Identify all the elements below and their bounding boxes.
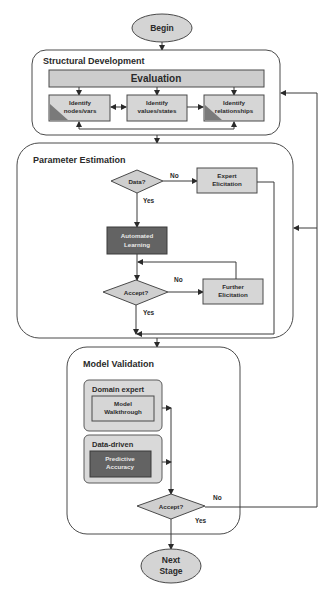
- automated-line2: Learning: [124, 241, 150, 248]
- identify-relationships-box: Identify relationships: [204, 95, 264, 121]
- domain-expert-group: Domain expert Model Walkthrough: [84, 380, 162, 431]
- validation-yes-label: Yes: [195, 517, 207, 524]
- structural-title: Structural Development: [43, 56, 145, 66]
- identify-nodes-line1: Identify: [69, 99, 92, 106]
- structural-development-stage: Structural Development Evaluation Identi…: [32, 50, 280, 135]
- further-line1: Further: [222, 283, 244, 290]
- identify-relationships-line1: Identify: [223, 99, 246, 106]
- walkthrough-line1: Model: [114, 400, 132, 407]
- expert-line1: Expert: [217, 172, 236, 179]
- data-driven-title: Data-driven: [92, 440, 134, 449]
- flowchart: Begin Structural Development Evaluation …: [0, 0, 333, 597]
- predictive-line1: Predictive: [105, 455, 135, 462]
- data-driven-group: Data-driven Predictive Accuracy: [84, 435, 162, 483]
- identify-nodes-box: Identify nodes/vars: [49, 95, 110, 121]
- identify-values-line1: Identify: [146, 99, 169, 106]
- data-decision-label: Data?: [128, 178, 145, 185]
- evaluation-label: Evaluation: [131, 73, 182, 84]
- parameter-title: Parameter Estimation: [33, 155, 126, 165]
- identify-nodes-line2: nodes/vars: [64, 107, 97, 114]
- further-line2: Elicitation: [218, 291, 248, 298]
- identify-relationships-line2: relationships: [215, 107, 254, 114]
- accept-yes-label: Yes: [143, 309, 155, 316]
- further-elicitation-box: Further Elicitation: [203, 279, 263, 304]
- begin-label: Begin: [150, 23, 174, 33]
- data-yes-label: Yes: [143, 197, 155, 204]
- automated-learning-box: Automated Learning: [107, 227, 167, 254]
- data-no-label: No: [170, 172, 179, 179]
- expert-line2: Elicitation: [212, 180, 242, 187]
- evaluation-bar: Evaluation: [49, 70, 264, 87]
- expert-elicitation-box: Expert Elicitation: [197, 168, 257, 193]
- predictive-line2: Accuracy: [106, 463, 134, 470]
- validation-title: Model Validation: [83, 359, 154, 369]
- next-stage-line2: Stage: [159, 566, 182, 576]
- identify-values-line2: values/states: [138, 107, 177, 114]
- next-stage-line1: Next: [162, 555, 181, 565]
- next-stage-node: Next Stage: [141, 549, 201, 583]
- parameter-estimation-stage: Parameter Estimation Data? No Yes Expert…: [17, 143, 293, 338]
- walkthrough-line2: Walkthrough: [104, 408, 142, 415]
- model-validation-stage: Model Validation Domain expert Model Wal…: [67, 347, 240, 534]
- automated-line1: Automated: [121, 232, 154, 239]
- begin-node: Begin: [132, 14, 192, 42]
- accept-param-label: Accept?: [124, 289, 149, 296]
- accept-validation-label: Accept?: [159, 503, 184, 510]
- accept-no-label: No: [174, 276, 183, 283]
- domain-expert-title: Domain expert: [92, 385, 145, 394]
- validation-no-label: No: [213, 494, 222, 501]
- identify-values-box: Identify values/states: [127, 95, 187, 121]
